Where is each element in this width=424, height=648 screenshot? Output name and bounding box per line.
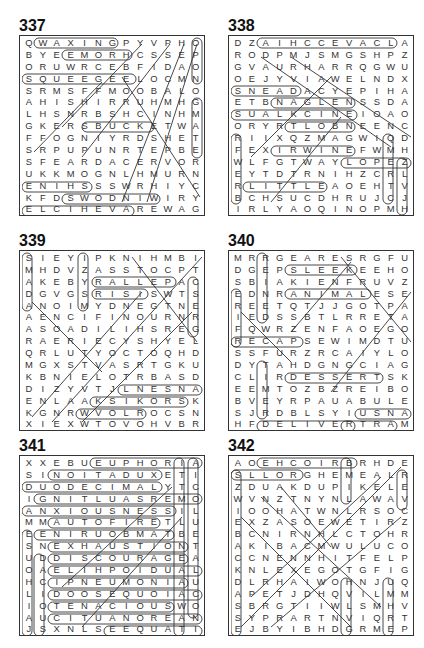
grid-letter: E — [300, 371, 314, 383]
grid-letter: O — [300, 203, 314, 215]
grid-letter: R — [189, 311, 203, 323]
grid-cells: SIEYIPKNIHMBIMHDVZASSTOCPTAKEBYRALLEPACD… — [22, 252, 202, 430]
grid-letter: M — [189, 108, 203, 120]
grid-letter: N — [314, 323, 328, 335]
grid-letter: T — [175, 288, 189, 300]
grid-letter: E — [398, 395, 412, 407]
grid-letter: B — [300, 311, 314, 323]
grid-letter: M — [398, 418, 412, 430]
grid-letter: S — [231, 85, 245, 97]
grid-letter: G — [36, 288, 50, 300]
grid-letter: D — [259, 418, 273, 430]
grid-letter: A — [22, 96, 36, 108]
grid-letter: A — [91, 540, 105, 552]
grid-letter: U — [328, 395, 342, 407]
grid-letter: I — [91, 132, 105, 144]
grid-letter: G — [189, 323, 203, 335]
grid-letter: S — [36, 623, 50, 635]
grid-letter: S — [22, 156, 36, 168]
grid-letter: E — [78, 371, 92, 383]
grid-letter: I — [64, 300, 78, 312]
grid-letter: R — [273, 612, 287, 624]
grid-letter: E — [398, 481, 412, 493]
grid-letter: M — [370, 600, 384, 612]
grid-letter: R — [133, 203, 147, 215]
grid-letter: W — [370, 493, 384, 505]
grid-letter: U — [105, 540, 119, 552]
grid-letter: G — [273, 156, 287, 168]
grid-letter: L — [384, 552, 398, 564]
grid-letter: D — [245, 288, 259, 300]
grid-letter: E — [78, 481, 92, 493]
grid-letter: N — [36, 395, 50, 407]
grid-letter: E — [356, 264, 370, 276]
grid-letter: W — [328, 540, 342, 552]
grid-letter: I — [231, 505, 245, 517]
grid-letter: L — [189, 564, 203, 576]
grid-letter: J — [259, 73, 273, 85]
grid-letter: T — [384, 311, 398, 323]
grid-letter: T — [175, 481, 189, 493]
puzzle-340: 340 MRRGEARESRGFUDGEPSLEEKEEHOSBIAKIENFR… — [228, 233, 414, 431]
grid-letter: C — [105, 600, 119, 612]
grid-letter: A — [189, 552, 203, 564]
grid-letter: A — [259, 108, 273, 120]
grid-letter: Z — [245, 37, 259, 49]
grid-letter: S — [231, 108, 245, 120]
grid-letter: E — [105, 73, 119, 85]
puzzle-338: 338 DZAIHCCEVACLARODPMJSMGSHPZGVAURHARRQ… — [228, 18, 414, 216]
grid-letter: X — [147, 469, 161, 481]
grid-letter: T — [161, 516, 175, 528]
grid-letter: E — [189, 144, 203, 156]
grid-letter: K — [287, 481, 301, 493]
grid-letter: R — [105, 49, 119, 61]
grid-letter: I — [300, 418, 314, 430]
grid-letter: N — [133, 383, 147, 395]
grid-letter: A — [175, 588, 189, 600]
grid-letter: O — [231, 73, 245, 85]
grid-letter: E — [119, 73, 133, 85]
grid-letter: O — [22, 61, 36, 73]
grid-letter: S — [231, 276, 245, 288]
grid-letter: E — [147, 383, 161, 395]
grid-letter: O — [189, 85, 203, 97]
grid-letter: N — [91, 37, 105, 49]
grid-letter: A — [64, 156, 78, 168]
grid-letter: N — [161, 108, 175, 120]
grid-letter: A — [287, 576, 301, 588]
grid-letter: E — [91, 203, 105, 215]
grid-letter: Z — [300, 132, 314, 144]
grid-letter: B — [259, 96, 273, 108]
grid-letter: O — [133, 612, 147, 624]
grid-letter: U — [273, 347, 287, 359]
grid-letter: E — [50, 276, 64, 288]
grid-letter: U — [189, 576, 203, 588]
grid-letter: E — [245, 311, 259, 323]
grid-letter: O — [91, 49, 105, 61]
grid-letter: H — [78, 203, 92, 215]
grid-letter: G — [64, 132, 78, 144]
grid-letter: X — [50, 359, 64, 371]
grid-letter: H — [314, 552, 328, 564]
grid-letter: L — [356, 540, 370, 552]
grid-letter: E — [245, 300, 259, 312]
grid-letter: A — [105, 276, 119, 288]
grid-letter: S — [314, 407, 328, 419]
grid-letter: T — [78, 612, 92, 624]
grid-letter: S — [147, 49, 161, 61]
grid-letter: B — [300, 623, 314, 635]
grid-letter: E — [356, 120, 370, 132]
grid-letter: D — [22, 383, 36, 395]
grid-letter: B — [119, 61, 133, 73]
grid-letter: S — [64, 96, 78, 108]
grid-letter: K — [287, 276, 301, 288]
grid-letter: W — [370, 144, 384, 156]
grid-letter: O — [398, 264, 412, 276]
grid-letter: T — [300, 300, 314, 312]
grid-letter: T — [133, 264, 147, 276]
grid-letter: H — [161, 132, 175, 144]
grid-letter: S — [78, 552, 92, 564]
grid-letter: U — [133, 96, 147, 108]
puzzle-number: 338 — [228, 18, 414, 35]
grid-letter: L — [245, 576, 259, 588]
